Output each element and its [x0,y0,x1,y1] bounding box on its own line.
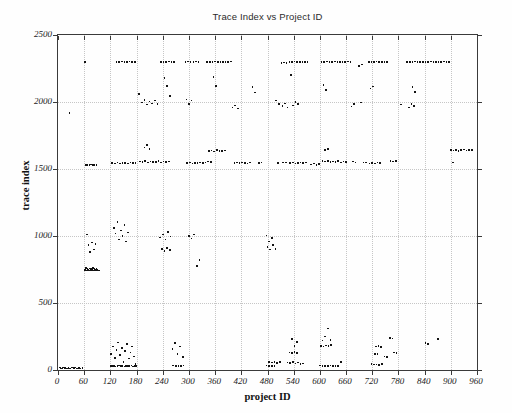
x-tick-mark [320,371,321,375]
data-point [371,363,373,365]
x-tick-mark [398,371,399,375]
data-point [130,352,132,354]
data-point [174,342,176,344]
data-point [396,352,398,354]
data-point [144,99,146,101]
data-point [463,149,465,151]
x-tick-mark [268,371,269,375]
data-point [327,365,329,367]
data-point [91,242,93,244]
data-point [322,340,324,342]
data-point [206,61,208,63]
data-point [340,361,342,363]
data-point [163,161,165,163]
data-point [213,151,215,153]
data-point [406,61,408,63]
data-point [193,61,195,63]
data-point [375,346,377,348]
data-point [93,249,95,251]
data-point [327,160,329,162]
y-tick-mark [53,303,57,304]
data-point [361,64,363,66]
data-point [186,99,188,101]
data-point [149,148,151,150]
data-point [331,61,333,63]
y-tick-mark-right [478,102,482,103]
data-point [275,248,277,250]
data-point [236,162,238,164]
data-point [460,149,462,151]
data-point [118,239,120,241]
data-point [202,162,204,164]
data-point [380,346,382,348]
data-point [365,162,367,164]
data-point [386,356,388,358]
data-point [150,161,152,163]
data-point [427,61,429,63]
x-tick-label: 300 [181,376,195,386]
y-tick-label: 2500 [14,29,52,39]
data-point [377,353,379,355]
chart-title: Trace Index vs Project ID [57,11,478,22]
data-point [169,95,171,97]
data-point [116,349,118,351]
x-tick-label: 720 [365,376,379,386]
data-point [199,259,201,261]
data-point [124,224,126,226]
data-point [353,103,355,105]
data-point [163,61,165,63]
data-point [195,61,197,63]
data-point [351,106,353,108]
data-point [324,336,326,338]
data-point [344,61,346,63]
data-point [121,61,123,63]
data-point [180,365,182,367]
x-tick-mark [372,371,373,375]
data-point [381,61,383,63]
x-tick-mark [58,371,59,375]
data-point [289,162,291,164]
data-point [88,244,90,246]
data-point [165,61,167,63]
data-point [373,61,375,63]
data-point [342,61,344,63]
x-tick-label: 660 [338,376,352,386]
plot-area [57,34,478,371]
data-point [274,365,276,367]
data-point [320,345,322,347]
data-point [142,161,144,163]
data-point [286,62,288,64]
data-point [221,150,223,152]
data-point [291,61,293,63]
data-point [122,162,124,164]
data-point [116,61,118,63]
data-point [117,162,119,164]
data-point [241,162,243,164]
data-point [363,162,365,164]
data-point [325,345,327,347]
data-point [261,162,263,164]
x-tick-label: 900 [443,376,457,386]
data-point [290,74,292,76]
y-tick-mark [53,102,57,103]
data-point [294,61,296,63]
data-point [121,347,123,349]
data-point [337,61,339,63]
data-point [327,328,329,330]
data-point [458,150,460,152]
data-point [384,356,386,358]
data-point [211,150,213,152]
data-point [371,162,373,164]
x-tick-label: 540 [286,376,300,386]
data-point [414,61,416,63]
data-point [307,61,309,63]
data-point [127,163,129,165]
data-point [438,61,440,63]
x-tick-mark [137,371,138,375]
y-tick-mark-right [478,303,482,304]
data-point [337,160,339,162]
data-point [378,345,380,347]
data-point [129,61,131,63]
data-point [268,365,270,367]
data-point [268,241,270,243]
